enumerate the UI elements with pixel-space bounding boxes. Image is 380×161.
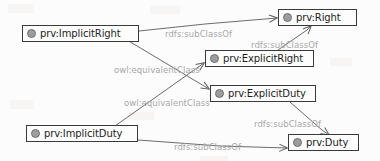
edge-label-explicit-right-to-right: rdfs:subClassOf bbox=[251, 41, 318, 50]
node-duty[interactable]: prv:Duty bbox=[288, 134, 359, 151]
node-implicit-duty[interactable]: prv:ImplicitDuty bbox=[26, 125, 138, 142]
node-label: prv:Duty bbox=[306, 137, 348, 148]
edge-label-implicit-duty-to-explicit-right: owl:equivalentClass bbox=[124, 99, 210, 108]
node-label: prv:ImplicitDuty bbox=[44, 128, 122, 139]
edge-label-explicit-duty-to-duty: rdfs:subClassOf bbox=[254, 120, 321, 129]
class-node-icon bbox=[31, 129, 40, 138]
class-node-icon bbox=[27, 29, 36, 38]
node-label: prv:ExplicitRight bbox=[223, 53, 303, 64]
node-label: prv:Right bbox=[296, 12, 341, 23]
node-right[interactable]: prv:Right bbox=[278, 9, 357, 26]
rdf-graph-diagram: prv:ImplicitRight prv:Right prv:Explicit… bbox=[0, 0, 380, 161]
edge-label-implicit-duty-to-duty: rdfs:subClassOf bbox=[174, 143, 241, 152]
class-node-icon bbox=[210, 54, 219, 63]
node-explicit-right[interactable]: prv:ExplicitRight bbox=[205, 50, 314, 67]
node-explicit-duty[interactable]: prv:ExplicitDuty bbox=[210, 85, 316, 102]
class-node-icon bbox=[293, 138, 302, 147]
class-node-icon bbox=[215, 89, 224, 98]
edge-label-implicit-right-to-right: rdfs:subClassOf bbox=[165, 30, 232, 39]
edge-label-implicit-right-to-explicit-duty: owl:equivalentClass bbox=[114, 66, 200, 75]
node-label: prv:ExplicitDuty bbox=[228, 88, 306, 99]
node-label: prv:ImplicitRight bbox=[40, 28, 121, 39]
node-implicit-right[interactable]: prv:ImplicitRight bbox=[22, 25, 139, 42]
class-node-icon bbox=[283, 13, 292, 22]
